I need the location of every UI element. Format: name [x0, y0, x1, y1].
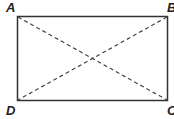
vertex-label-a: A — [5, 0, 15, 15]
vertex-label-b: B — [167, 0, 174, 15]
vertex-label-c: C — [167, 103, 174, 118]
vertex-label-d: D — [6, 103, 16, 118]
rectangle-diagram: A B C D — [0, 0, 174, 119]
